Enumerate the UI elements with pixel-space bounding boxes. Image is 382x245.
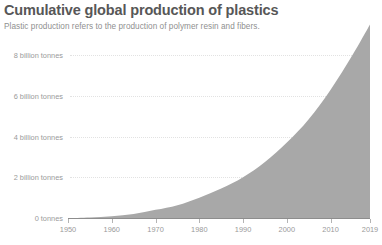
x-axis-label: 1970	[147, 225, 163, 234]
x-axis-tick	[68, 219, 69, 223]
x-axis-label: 2010	[322, 225, 338, 234]
x-axis-tick	[287, 219, 288, 223]
y-axis-label: 6 billion tonnes	[0, 91, 63, 100]
x-axis-tick	[199, 219, 200, 223]
x-axis-label: 1980	[191, 225, 207, 234]
y-axis-label: 2 billion tonnes	[0, 173, 63, 182]
x-axis-label: 1990	[235, 225, 251, 234]
chart-container: Cumulative global production of plastics…	[0, 0, 382, 245]
y-axis-label: 4 billion tonnes	[0, 132, 63, 141]
x-axis-tick	[112, 219, 113, 223]
x-axis-tick	[156, 219, 157, 223]
x-axis-label: 1950	[60, 225, 76, 234]
y-axis-label: 8 billion tonnes	[0, 51, 63, 60]
y-axis-label: 0 tonnes	[0, 214, 63, 223]
x-axis-label: 1960	[104, 225, 120, 234]
x-axis-label: 2019	[362, 225, 378, 234]
plot-area: 0 tonnes2 billion tonnes4 billion tonnes…	[0, 0, 382, 245]
x-axis-line	[68, 218, 370, 219]
area-series-plastics	[0, 0, 382, 245]
x-axis-tick	[370, 219, 371, 223]
area-path	[68, 24, 370, 218]
x-axis-tick	[243, 219, 244, 223]
x-axis-tick	[331, 219, 332, 223]
x-axis-label: 2000	[279, 225, 295, 234]
